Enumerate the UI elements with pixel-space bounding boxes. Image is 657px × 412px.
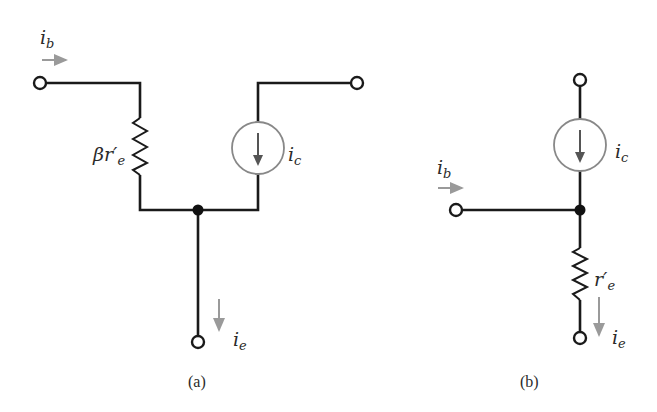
panel-b-emitter-terminal (574, 332, 586, 344)
panel-a-resistor-label: βr′e (93, 145, 125, 167)
panel-b-collector-terminal (574, 74, 586, 86)
panel-b-ic-label: ic (615, 142, 628, 164)
panel-a-ic-label: ic (288, 145, 301, 167)
panel-b-ie-label: ie (612, 328, 626, 350)
panel-a-ie-label: ie (233, 330, 247, 352)
panel-b-resistor (573, 248, 587, 300)
panel-a-caption: (a) (188, 374, 206, 390)
panel-a-collector-wire (258, 83, 351, 122)
circuit-diagram (0, 0, 657, 412)
panel-b-junction-node (575, 205, 586, 216)
panel-b-resistor-label: r′e (594, 270, 615, 292)
panel-a-emitter-terminal (192, 336, 204, 348)
panel-a-ib-label: ib (40, 28, 54, 50)
panel-a-collector-terminal (351, 77, 363, 89)
panel-b-base-terminal (450, 204, 462, 216)
circuit-figure: ib βr′e ic ie (a) ib ic r′e ie (b) (0, 0, 657, 412)
panel-a-base-wire (46, 83, 140, 118)
panel-a-resistor (133, 118, 147, 175)
panel-a-junction-node (193, 205, 204, 216)
panel-a-base-terminal (34, 77, 46, 89)
panel-b-caption: (b) (520, 374, 539, 390)
panel-b-ib-label: ib (437, 158, 451, 180)
